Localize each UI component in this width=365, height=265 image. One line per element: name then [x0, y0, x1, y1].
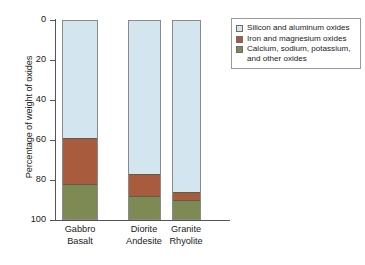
x-axis-line — [55, 220, 230, 221]
segment-divider — [62, 184, 98, 185]
y-axis-line — [55, 19, 56, 220]
x-label-line1: Granite — [156, 224, 216, 236]
y-tick-label: 20 — [14, 54, 46, 64]
x-label-line2: Basalt — [50, 236, 110, 248]
bar-segment-calcium — [172, 200, 201, 220]
segment-divider — [62, 138, 98, 139]
x-label-granite-rhyolite: Granite Rhyolite — [156, 224, 216, 247]
legend-item-iron: Iron and magnesium oxides — [236, 34, 356, 44]
bar-segment-silicon — [128, 20, 161, 174]
legend-label-calcium-line2: and other oxides — [247, 54, 307, 63]
segment-divider — [128, 174, 161, 175]
bar-diorite-andesite — [128, 20, 161, 220]
bar-segment-calcium — [62, 184, 98, 220]
bar-segment-silicon — [172, 20, 201, 192]
legend-label-calcium-line1: Calcium, sodium, potassium, — [247, 44, 350, 53]
bar-granite-rhyolite — [172, 20, 201, 220]
legend-label-iron: Iron and magnesium oxides — [247, 34, 346, 44]
y-tick-mark — [50, 100, 55, 101]
y-tick-label: 80 — [14, 174, 46, 184]
legend-item-silicon: Silicon and aluminum oxides — [236, 23, 356, 33]
legend-swatch-icon-iron — [236, 36, 243, 43]
x-label-line2: Rhyolite — [156, 236, 216, 248]
y-tick-label: 60 — [14, 134, 46, 144]
bar-segment-calcium — [128, 196, 161, 220]
x-label-gabbro-basalt: Gabbro Basalt — [50, 224, 110, 247]
segment-divider — [172, 192, 201, 193]
y-tick-mark — [50, 60, 55, 61]
segment-divider — [128, 196, 161, 197]
y-tick-label: 0 — [14, 14, 46, 24]
y-tick-label: 40 — [14, 94, 46, 104]
bar-segment-iron — [128, 174, 161, 196]
bar-gabbro-basalt — [62, 20, 98, 220]
x-label-line1: Gabbro — [50, 224, 110, 236]
y-tick-mark — [50, 140, 55, 141]
legend-item-calcium: Calcium, sodium, potassium, and other ox… — [236, 44, 356, 63]
stacked-bar-chart: Percentage of weight of oxides 020406080… — [0, 0, 365, 265]
bar-segment-iron — [172, 192, 201, 200]
legend-label-silicon: Silicon and aluminum oxides — [247, 23, 350, 33]
bar-segment-silicon — [62, 20, 98, 138]
y-tick-mark — [50, 180, 55, 181]
y-tick-mark — [50, 20, 55, 21]
y-axis-title: Percentage of weight of oxides — [24, 17, 34, 217]
legend-swatch-icon-silicon — [236, 25, 243, 32]
chart-legend: Silicon and aluminum oxides Iron and mag… — [231, 18, 361, 69]
y-tick-mark — [50, 220, 55, 221]
legend-label-calcium: Calcium, sodium, potassium, and other ox… — [247, 44, 350, 63]
bar-segment-iron — [62, 138, 98, 184]
legend-swatch-icon-calcium — [236, 46, 243, 53]
y-tick-label: 100 — [14, 214, 46, 224]
segment-divider — [172, 200, 201, 201]
